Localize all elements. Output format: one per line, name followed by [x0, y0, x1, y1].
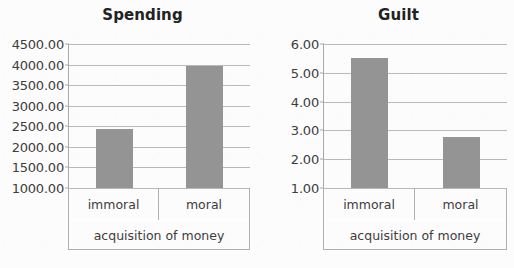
y-axis-tick-label: 1000.00	[12, 181, 64, 196]
y-axis-tick-label: 1500.00	[12, 160, 64, 175]
y-axis-tick-label: 6.00	[291, 37, 319, 52]
y-axis-tick-mark	[65, 167, 69, 168]
y-axis-tick-mark	[320, 130, 324, 131]
y-axis-tick-mark	[65, 85, 69, 86]
figure-canvas: Spending 4500.004000.003500.003000.00250…	[0, 0, 514, 268]
y-axis-tick-label: 5.00	[291, 65, 319, 80]
y-axis-tick-label: 2500.00	[12, 119, 64, 134]
y-axis-tick-label: 3500.00	[12, 78, 64, 93]
category-label-moral: moral	[415, 188, 506, 220]
bar-moral	[443, 137, 480, 188]
chart-title-guilt: Guilt	[257, 6, 514, 24]
category-table-spending: immoral moral acquisition of money	[68, 188, 250, 250]
chart-title-spending: Spending	[0, 6, 257, 24]
plot-area-spending: 4500.004000.003500.003000.002500.002000.…	[68, 44, 250, 188]
category-label-immoral: immoral	[324, 188, 415, 220]
y-axis-tick-label: 3000.00	[12, 98, 64, 113]
y-axis-tick-mark	[65, 146, 69, 147]
y-axis-tick-mark	[320, 72, 324, 73]
y-axis-tick-mark	[65, 126, 69, 127]
y-axis-tick-mark	[320, 101, 324, 102]
category-label-moral: moral	[159, 188, 249, 220]
bar-immoral	[351, 58, 388, 188]
y-axis-tick-label: 4500.00	[12, 37, 64, 52]
y-axis-tick-mark	[65, 44, 69, 45]
chart-panel-guilt: Guilt 6.005.004.003.002.001.00 immoral m…	[257, 0, 514, 268]
x-axis-label-guilt: acquisition of money	[324, 220, 506, 249]
y-axis-tick-label: 2.00	[291, 152, 319, 167]
category-label-immoral: immoral	[69, 188, 159, 220]
bar-moral	[186, 66, 223, 188]
y-axis-tick-label: 2000.00	[12, 139, 64, 154]
category-row-guilt: immoral moral	[324, 188, 506, 220]
bar-immoral	[96, 129, 133, 188]
y-axis-tick-label: 3.00	[291, 123, 319, 138]
gridline	[324, 44, 507, 45]
y-axis-tick-mark	[65, 64, 69, 65]
y-axis-tick-label: 4000.00	[12, 57, 64, 72]
category-row-spending: immoral moral	[69, 188, 249, 220]
gridline	[69, 44, 250, 45]
plot-area-guilt: 6.005.004.003.002.001.00	[323, 44, 507, 188]
x-axis-label-spending: acquisition of money	[69, 220, 249, 249]
y-axis-tick-mark	[320, 159, 324, 160]
y-axis-tick-label: 4.00	[291, 94, 319, 109]
y-axis-tick-mark	[320, 44, 324, 45]
y-axis-tick-label: 1.00	[291, 181, 319, 196]
y-axis-tick-mark	[65, 105, 69, 106]
chart-panel-spending: Spending 4500.004000.003500.003000.00250…	[0, 0, 257, 268]
category-table-guilt: immoral moral acquisition of money	[323, 188, 507, 250]
